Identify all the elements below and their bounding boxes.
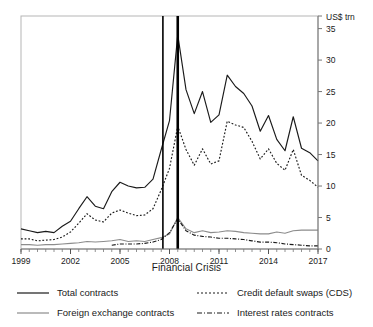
legend-item-cds: Credit default swaps (CDS): [196, 286, 352, 300]
plot-frame: [21, 16, 318, 249]
legend-item-interest-rates: Interest rates contracts: [196, 306, 334, 320]
y-tick-label: 25: [326, 87, 336, 97]
plot-area: 05101520253035US$ trn1999200220052008201…: [0, 0, 373, 268]
legend-item-foreign-exchange: Foreign exchange contracts: [16, 306, 174, 320]
legend-label-interest-rates: Interest rates contracts: [237, 308, 334, 318]
legend-label-cds: Credit default swaps (CDS): [237, 288, 352, 298]
y-tick-label: 10: [326, 181, 336, 191]
y-axis-unit-label: US$ trn: [326, 12, 355, 22]
y-tick-label: 15: [326, 150, 336, 160]
legend-label-foreign-exchange: Foreign exchange contracts: [57, 308, 174, 318]
y-tick-label: 20: [326, 118, 336, 128]
y-tick-label: 35: [326, 24, 336, 34]
y-tick-label: 0: [326, 244, 331, 254]
y-tick-label: 5: [326, 213, 331, 223]
chart-figure: 05101520253035US$ trn1999200220052008201…: [0, 0, 373, 327]
x-axis-title: Financial Crisis: [0, 262, 373, 273]
legend-key-solid-gray-icon: [16, 308, 50, 318]
legend-label-total-contracts: Total contracts: [57, 288, 118, 298]
legend-key-solid-black-icon: [16, 288, 50, 298]
chart-legend: Total contracts Credit default swaps (CD…: [0, 286, 373, 327]
line-chart-svg: 05101520253035US$ trn1999200220052008201…: [0, 0, 373, 268]
legend-item-total-contracts: Total contracts: [16, 286, 118, 300]
y-tick-label: 30: [326, 55, 336, 65]
legend-key-dashdot-icon: [196, 308, 230, 318]
legend-key-dotted-icon: [196, 288, 230, 298]
